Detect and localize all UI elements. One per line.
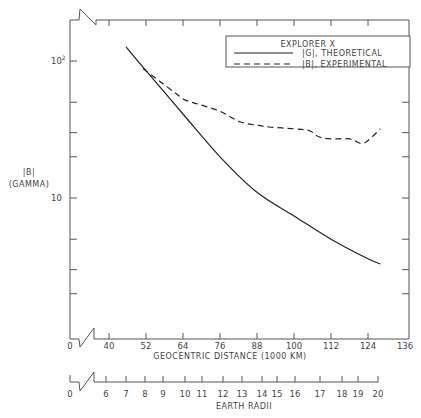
x2-tick-label: 12 <box>218 389 229 399</box>
x-tick-label: 136 <box>397 341 413 351</box>
x2-tick-label: 18 <box>337 389 348 399</box>
y-tick-10: 10 <box>51 193 62 203</box>
x-tick-label: 100 <box>286 341 302 351</box>
x-tick-label: 52 <box>141 341 152 351</box>
legend-title: EXPLORER X <box>280 40 335 49</box>
x-tick-label: 112 <box>323 341 339 351</box>
experimental-curve <box>143 69 380 144</box>
theoretical-curve <box>126 47 380 264</box>
earth-radii-tick-labels: 67891011121314151617181920 <box>103 389 383 399</box>
legend-dashed-label: |B|, EXPERIMENTAL <box>302 60 387 69</box>
x2-tick-label: 16 <box>290 389 301 399</box>
top-axis-ticks <box>109 20 368 26</box>
y-axis-unit: (GAMMA) <box>9 180 50 189</box>
x-axis-label: GEOCENTRIC DISTANCE (1000 KM) <box>153 352 306 361</box>
x2-tick-label: 8 <box>142 389 147 399</box>
x2-tick-label: 19 <box>353 389 364 399</box>
x-tick-label: 40 <box>104 341 115 351</box>
earth-radii-ticks <box>106 376 378 382</box>
legend-solid-label: |G|, THEORETICAL <box>302 49 382 58</box>
x-tick-zero: 0 <box>67 341 72 351</box>
legend: EXPLORER X |G|, THEORETICAL |B|, EXPERIM… <box>226 36 410 69</box>
magnetic-field-chart: 102 10 |B| (GAMMA) 405264768810011212413… <box>0 0 421 418</box>
x2-tick-label: 20 <box>373 389 384 399</box>
x2-tick-label: 13 <box>237 389 248 399</box>
x2-tick-label: 11 <box>197 389 208 399</box>
x-tick-label: 88 <box>252 341 263 351</box>
x2-tick-label: 17 <box>315 389 326 399</box>
x2-tick-zero: 0 <box>67 389 72 399</box>
x2-tick-label: 10 <box>180 389 191 399</box>
x2-axis-label: EARTH RADII <box>216 402 272 411</box>
x2-tick-label: 6 <box>103 389 108 399</box>
x2-tick-label: 15 <box>272 389 283 399</box>
x-axis-ticks <box>109 333 368 339</box>
y-axis-label: |B| <box>23 168 35 177</box>
x2-tick-label: 7 <box>123 389 128 399</box>
x-axis-tick-labels: 4052647688100112124136 <box>104 341 414 351</box>
x-tick-label: 64 <box>178 341 189 351</box>
x-tick-label: 76 <box>215 341 226 351</box>
x2-tick-label: 14 <box>257 389 268 399</box>
x2-tick-label: 9 <box>160 389 165 399</box>
y-tick-100: 102 <box>51 54 66 66</box>
x-tick-label: 124 <box>360 341 376 351</box>
